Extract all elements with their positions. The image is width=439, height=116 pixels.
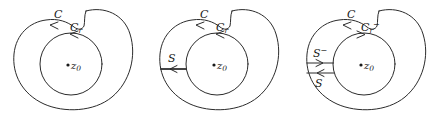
outer-contour-label: C — [54, 8, 63, 21]
outer-contour-label: C — [347, 8, 356, 21]
panel-2-canvas: C Cr z0 S — [146, 0, 292, 116]
center-point-dot — [359, 63, 362, 66]
center-point-dot — [66, 63, 69, 66]
center-point-dot — [212, 63, 215, 66]
panel-1-canvas: C Cr z0 — [0, 0, 146, 116]
cut-segment-s-label: S — [315, 77, 323, 90]
cut-segment-s-minus-label: S− — [313, 46, 327, 60]
cut-segment-s-label: S — [168, 52, 176, 65]
center-point-label: z0 — [216, 60, 227, 73]
outer-contour-arrowhead — [50, 22, 58, 29]
center-point-label: z0 — [363, 60, 374, 73]
panel-1: C Cr z0 — [0, 0, 146, 116]
outer-contour-label: C — [200, 8, 209, 21]
outer-contour-arrowhead — [343, 22, 351, 29]
panel-3: C Cr− z0 S− S — [293, 0, 439, 116]
panel-3-canvas: C Cr− z0 S− S — [293, 0, 439, 116]
inner-circle-label: Cr — [216, 21, 228, 35]
center-point-label: z0 — [70, 60, 81, 73]
inner-circle-label: Cr — [70, 21, 82, 35]
inner-circle-label: Cr− — [361, 20, 380, 35]
panel-2: C Cr z0 S — [146, 0, 292, 116]
contour-deformation-figure: C Cr z0 C Cr z0 S — [0, 0, 439, 116]
outer-contour-arrowhead — [196, 22, 204, 29]
